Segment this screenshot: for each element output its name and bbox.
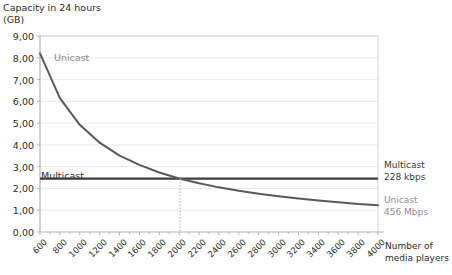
multicast-line-label: Multicast bbox=[41, 170, 84, 181]
legend-multicast: Multicast 228 kbps bbox=[384, 160, 425, 183]
capacity-line-chart: Capacity in 24 hours (GB) Number of medi… bbox=[0, 0, 452, 275]
plot-area bbox=[0, 0, 452, 275]
legend-unicast: Unicast 456 Mbps bbox=[384, 195, 428, 218]
unicast-curve-label: Unicast bbox=[54, 52, 89, 63]
